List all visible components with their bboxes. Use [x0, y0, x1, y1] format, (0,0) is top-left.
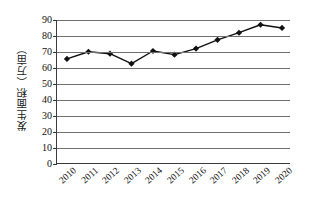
y-axis-tick-label: 90	[42, 15, 52, 25]
y-axis-tick-mark	[53, 36, 57, 37]
x-axis-tick-label: 2010	[58, 166, 78, 186]
y-axis-tick-mark	[53, 132, 57, 133]
y-axis-tick-labels: 0102030405060708090	[30, 14, 52, 170]
y-axis-tick-label: 50	[42, 79, 52, 89]
x-axis-tick-label: 2018	[231, 166, 251, 186]
y-axis-tick-mark	[53, 116, 57, 117]
y-axis-tick-mark	[53, 164, 57, 165]
x-axis-tick-label: 2019	[252, 166, 272, 186]
data-point-marker	[128, 61, 134, 67]
gridline	[57, 84, 290, 85]
gridline	[57, 100, 290, 101]
gridline	[57, 68, 290, 69]
gridline	[57, 132, 290, 133]
gridline	[57, 36, 290, 37]
gridline	[57, 116, 290, 117]
data-point-marker	[279, 25, 285, 31]
y-axis-tick-mark	[53, 84, 57, 85]
series-polyline	[67, 25, 282, 64]
y-axis-tick-mark	[53, 68, 57, 69]
x-axis-tick-label: 2014	[144, 166, 164, 186]
y-axis-tick-label: 10	[42, 143, 52, 153]
x-axis-tick-label: 2016	[187, 166, 207, 186]
data-series-line	[57, 20, 290, 163]
x-axis-tick-label: 2015	[166, 166, 186, 186]
y-axis-title-text: 发生面积（万亩）	[18, 43, 29, 131]
y-axis-tick-label: 30	[42, 111, 52, 121]
y-axis-tick-mark	[53, 148, 57, 149]
y-axis-tick-label: 80	[42, 31, 52, 41]
y-axis-tick-mark	[53, 52, 57, 53]
line-chart: 发生面积（万亩） 0102030405060708090 20102011201…	[0, 0, 310, 206]
plot-area	[56, 20, 290, 164]
data-point-marker	[236, 30, 242, 36]
data-point-marker	[193, 46, 199, 52]
y-axis-tick-mark	[53, 100, 57, 101]
y-axis-tick-mark	[53, 20, 57, 21]
x-axis-tick-labels: 2010201120122013201420152016201720182019…	[56, 166, 290, 206]
gridline	[57, 52, 290, 53]
y-axis-tick-label: 20	[42, 127, 52, 137]
y-axis-tick-label: 40	[42, 95, 52, 105]
x-axis-tick-label: 2012	[101, 166, 121, 186]
gridline	[57, 20, 290, 21]
gridline	[57, 148, 290, 149]
x-axis-tick-label: 2020	[274, 166, 294, 186]
data-point-marker	[257, 22, 263, 28]
data-point-marker	[150, 48, 156, 54]
y-axis-tick-label: 60	[42, 63, 52, 73]
y-axis-tick-label: 70	[42, 47, 52, 57]
x-axis-tick-label: 2017	[209, 166, 229, 186]
data-point-marker	[64, 56, 70, 62]
x-axis-tick-label: 2011	[80, 166, 100, 186]
x-axis-tick-label: 2013	[123, 166, 143, 186]
y-axis-tick-label: 0	[47, 159, 52, 169]
data-point-marker	[214, 37, 220, 43]
